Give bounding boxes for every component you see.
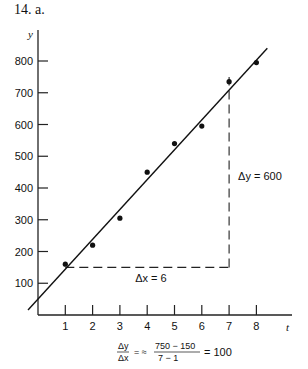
formula-num: 750 − 150 xyxy=(155,341,195,351)
fit-line xyxy=(28,48,267,310)
x-tick-label: 1 xyxy=(62,320,68,332)
formula-result: = 100 xyxy=(204,346,232,358)
y-tick-label: 100 xyxy=(15,277,33,289)
x-tick-label: 5 xyxy=(171,320,177,332)
data-point xyxy=(145,170,150,175)
y-ticks: 100200300400500600700800 xyxy=(15,55,48,289)
x-ticks: 12345678 xyxy=(62,305,259,332)
data-point xyxy=(90,243,95,248)
y-tick-label: 500 xyxy=(15,150,33,162)
formula-lhs-num: Δy xyxy=(118,341,129,351)
data-point xyxy=(227,79,232,84)
formula-den: 7 − 1 xyxy=(158,353,178,363)
chart: 100200300400500600700800 12345678 y t Δx… xyxy=(0,0,308,369)
x-tick-label: 8 xyxy=(253,320,259,332)
data-point xyxy=(63,262,68,267)
x-tick-label: 2 xyxy=(90,320,96,332)
formula-approx: = ≈ xyxy=(134,347,147,357)
delta-x-label: Δx = 6 xyxy=(135,272,167,284)
x-axis-label: t xyxy=(286,321,290,333)
y-tick-label: 800 xyxy=(15,55,33,67)
x-tick-label: 6 xyxy=(199,320,205,332)
y-tick-label: 700 xyxy=(15,87,33,99)
data-point xyxy=(172,141,177,146)
data-point xyxy=(117,216,122,221)
y-tick-label: 600 xyxy=(15,119,33,131)
x-tick-label: 7 xyxy=(226,320,232,332)
x-tick-label: 3 xyxy=(117,320,123,332)
y-tick-label: 400 xyxy=(15,182,33,194)
slope-formula: Δy Δx = ≈ 750 − 150 7 − 1 = 100 xyxy=(117,341,232,363)
x-tick-label: 4 xyxy=(144,320,150,332)
y-axis-label: y xyxy=(27,28,33,40)
formula-lhs-den: Δx xyxy=(118,353,129,363)
data-point xyxy=(199,123,204,128)
data-point xyxy=(254,60,259,65)
y-tick-label: 200 xyxy=(15,246,33,258)
y-tick-label: 300 xyxy=(15,214,33,226)
delta-y-label: Δy = 600 xyxy=(238,170,282,182)
